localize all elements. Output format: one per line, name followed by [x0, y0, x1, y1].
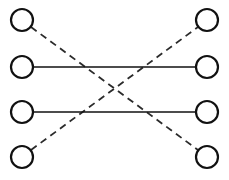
bipartite-diagram-svg: [0, 0, 229, 180]
diagram-canvas: [0, 0, 229, 180]
node-right-3[interactable]: [196, 101, 218, 123]
node-right-2[interactable]: [196, 56, 218, 78]
node-right-1[interactable]: [196, 9, 218, 31]
node-left-1[interactable]: [11, 9, 33, 31]
node-right-4[interactable]: [196, 146, 218, 168]
nodes-layer: [11, 9, 218, 168]
edge-dashed-l4-r1[interactable]: [31, 27, 198, 150]
edges-layer: [31, 27, 198, 150]
edge-dashed-l1-r4[interactable]: [31, 27, 198, 150]
node-left-3[interactable]: [11, 101, 33, 123]
node-left-2[interactable]: [11, 56, 33, 78]
node-left-4[interactable]: [11, 146, 33, 168]
